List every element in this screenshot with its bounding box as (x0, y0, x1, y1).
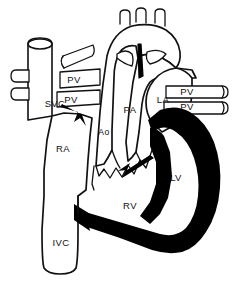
label-pv-4: PV (180, 101, 194, 112)
label-ao: Ao (98, 127, 109, 137)
label-pa: PA (124, 104, 137, 115)
label-pv-3: PV (180, 86, 194, 97)
heart-diagram: SVC PV PV PV PV RA IVC Ao PA LA LV RV (0, 0, 234, 286)
label-lv: LV (170, 172, 182, 183)
aortic-arch-branches (120, 8, 165, 26)
label-rv: RV (123, 200, 137, 211)
label-pv-1: PV (67, 74, 81, 85)
right-atrium-and-ivc (42, 113, 92, 274)
left-pulmonary-vein-stubs (11, 70, 29, 100)
label-svc: SVC (45, 98, 66, 109)
label-pv-2: PV (64, 94, 78, 105)
label-ra: RA (56, 143, 70, 154)
label-ivc: IVC (52, 237, 69, 248)
heart-diagram-canvas: SVC PV PV PV PV RA IVC Ao PA LA LV RV (0, 0, 234, 286)
label-la: LA (157, 94, 170, 105)
